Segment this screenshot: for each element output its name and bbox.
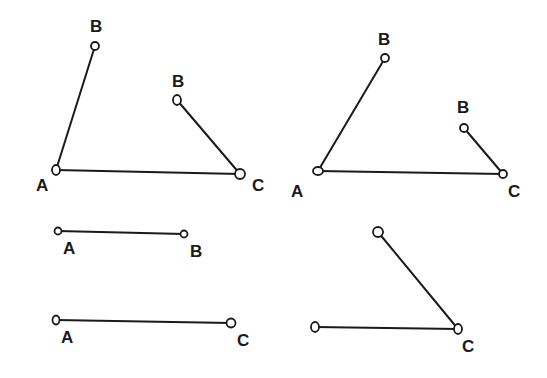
endpoint-circle-icon [53, 316, 60, 325]
vertex-label: B [457, 98, 469, 117]
vertex-label: B [172, 72, 184, 91]
endpoint-circle-icon [381, 54, 389, 62]
triangle-left: BBAC [36, 17, 264, 195]
line-segment [56, 46, 95, 170]
vertex-label: C [462, 337, 474, 356]
line-segment [378, 232, 458, 329]
line-segment [318, 171, 503, 174]
endpoint-circle-icon [499, 170, 507, 178]
triangle-right: BBAC [291, 30, 520, 201]
vertex-label: C [508, 182, 520, 201]
segment-ac: AC [53, 316, 250, 351]
endpoint-circle-icon [181, 231, 188, 238]
vertex-label: A [291, 182, 303, 201]
endpoint-circle-icon [227, 319, 236, 328]
vertex-label: C [237, 331, 249, 350]
endpoint-circle-icon [460, 124, 468, 132]
endpoint-circle-icon [91, 42, 99, 50]
endpoint-circle-icon [52, 165, 60, 175]
line-segment [56, 320, 231, 323]
geometry-diagram: BBACBBACABACC [0, 0, 547, 378]
line-segment [58, 231, 184, 234]
vertex-label: C [252, 176, 264, 195]
vertex-label: B [90, 17, 102, 36]
line-segment [315, 327, 458, 329]
endpoint-circle-icon [173, 95, 181, 105]
vertex-label: A [36, 176, 48, 195]
angle-c: C [311, 227, 474, 356]
vertex-label: A [63, 239, 75, 258]
endpoint-circle-icon [373, 227, 383, 237]
line-segment [318, 58, 385, 171]
endpoint-circle-icon [311, 322, 319, 332]
endpoint-circle-icon [454, 324, 462, 334]
vertex-label: B [190, 242, 202, 261]
vertex-label: B [378, 30, 390, 49]
endpoint-circle-icon [235, 169, 245, 179]
line-segment [56, 170, 240, 174]
endpoint-circle-icon [55, 228, 62, 235]
endpoint-circle-icon [313, 167, 323, 175]
vertex-label: A [61, 328, 73, 347]
line-segment [177, 100, 240, 174]
line-segment [464, 128, 503, 174]
segment-ab: AB [55, 228, 203, 262]
